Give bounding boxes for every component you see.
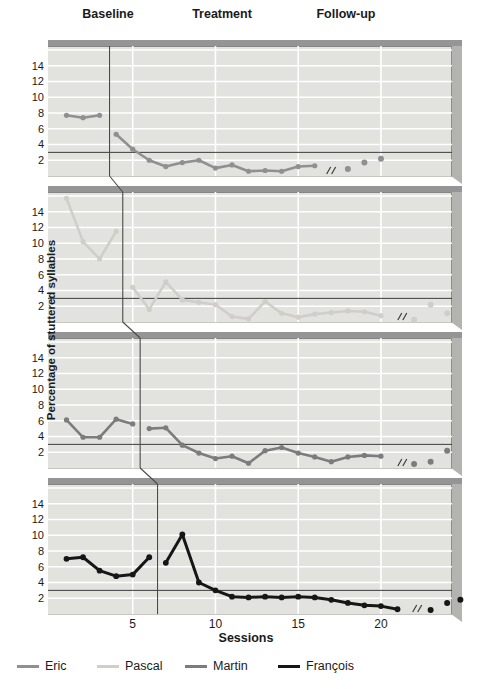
legend-label: François xyxy=(306,659,354,673)
svg-text:14: 14 xyxy=(32,206,44,218)
svg-text:5: 5 xyxy=(129,617,136,631)
panel-right-edge xyxy=(451,46,462,184)
legend-item-pascal: Pascal xyxy=(97,656,163,676)
panel-eric xyxy=(48,40,462,176)
x-axis-title: Sessions xyxy=(196,631,296,645)
legend-label: Pascal xyxy=(125,659,163,673)
svg-text:10: 10 xyxy=(32,91,44,103)
legend-item-martin: Martin xyxy=(185,656,248,676)
svg-text:10: 10 xyxy=(32,237,44,249)
svg-text:4: 4 xyxy=(38,576,44,588)
panel-francois xyxy=(48,478,462,614)
svg-text:8: 8 xyxy=(38,545,44,557)
svg-text:10: 10 xyxy=(209,617,223,631)
svg-text:12: 12 xyxy=(32,75,44,87)
legend-swatch xyxy=(278,665,300,668)
plot-area-martin xyxy=(48,338,452,469)
plot-area-eric xyxy=(48,46,452,177)
svg-text:12: 12 xyxy=(32,221,44,233)
phase-label-treatment: Treatment xyxy=(172,7,272,21)
svg-text:10: 10 xyxy=(32,383,44,395)
svg-text:2: 2 xyxy=(38,154,44,166)
svg-text:8: 8 xyxy=(38,253,44,265)
svg-text:14: 14 xyxy=(32,498,44,510)
svg-text:2: 2 xyxy=(38,592,44,604)
svg-text:4: 4 xyxy=(38,138,44,150)
svg-text:6: 6 xyxy=(38,561,44,573)
panel-top-edge xyxy=(48,478,462,485)
svg-text:15: 15 xyxy=(292,617,306,631)
panel-right-edge xyxy=(451,192,462,330)
svg-text:2: 2 xyxy=(38,300,44,312)
phase-label-followup: Follow-up xyxy=(296,7,396,21)
svg-text:8: 8 xyxy=(38,107,44,119)
legend: EricPascalMartinFrançois xyxy=(0,656,487,680)
svg-text:12: 12 xyxy=(32,367,44,379)
legend-swatch xyxy=(185,665,207,668)
svg-text:10: 10 xyxy=(32,529,44,541)
panel-top-edge xyxy=(48,186,462,193)
legend-item-eric: Eric xyxy=(17,656,67,676)
plot-area-francois xyxy=(48,484,452,615)
svg-text:20: 20 xyxy=(374,617,388,631)
panel-top-edge xyxy=(48,332,462,339)
svg-text:4: 4 xyxy=(38,430,44,442)
svg-text:6: 6 xyxy=(38,269,44,281)
svg-text:8: 8 xyxy=(38,399,44,411)
y-axis-title: Percentage of stuttered syllables xyxy=(45,215,57,445)
panel-right-edge xyxy=(451,338,462,476)
svg-text:4: 4 xyxy=(38,284,44,296)
svg-text:6: 6 xyxy=(38,415,44,427)
plot-area-pascal xyxy=(48,192,452,323)
legend-label: Martin xyxy=(213,659,248,673)
svg-text:14: 14 xyxy=(32,352,44,364)
legend-item-francois: François xyxy=(278,656,354,676)
panel-right-edge xyxy=(451,484,462,622)
legend-swatch xyxy=(17,665,39,668)
svg-text:6: 6 xyxy=(38,123,44,135)
legend-swatch xyxy=(97,665,119,668)
svg-text:12: 12 xyxy=(32,513,44,525)
panel-top-edge xyxy=(48,40,462,47)
panel-pascal xyxy=(48,186,462,322)
legend-label: Eric xyxy=(45,659,67,673)
panel-martin xyxy=(48,332,462,468)
phase-label-baseline: Baseline xyxy=(58,7,158,21)
figure: Baseline Treatment Follow-up Percentage … xyxy=(0,0,487,689)
svg-text:14: 14 xyxy=(32,60,44,72)
svg-text:2: 2 xyxy=(38,446,44,458)
